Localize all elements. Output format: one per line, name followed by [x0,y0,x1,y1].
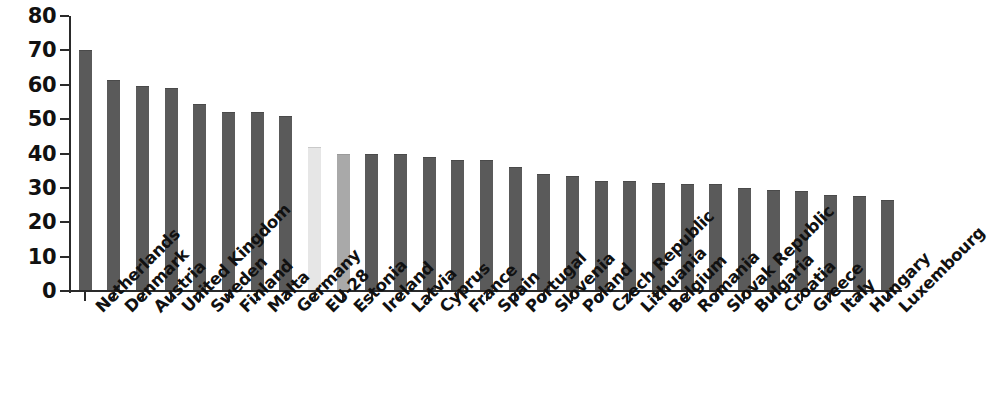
x-axis-tick-label: Germany [293,303,306,316]
y-axis-tick-label: 60 [28,73,56,97]
y-axis-tick-mark [60,153,69,155]
x-axis-tick-label: United Kingdom [178,303,191,316]
x-axis-labels: NetherlandsDenmarkAustriaUnited KingdomS… [71,303,902,414]
bar-slot [730,16,759,291]
x-axis-tick-label: Spain [494,303,507,316]
y-axis-tick-label: 50 [28,107,56,131]
x-axis-tick-label: Italy [837,303,850,316]
bar-slot [845,16,874,291]
y-axis: 01020304050607080 [0,0,72,300]
y-axis-tick-label: 20 [28,210,56,234]
x-axis-tick-label: Slovenia [551,303,564,316]
bar-slot [701,16,730,291]
bar-slot [873,16,902,291]
x-axis-tick-label: Czech Republic [608,303,621,316]
bar-slot [615,16,644,291]
bar [79,50,92,291]
x-axis-tick-label: Poland [579,303,592,316]
x-axis-tick-label: Denmark [121,303,134,316]
x-axis-tick-label: Lithuania [637,303,650,316]
y-axis-tick-mark [60,256,69,258]
y-axis-tick-mark [60,118,69,120]
bar-slot [186,16,215,291]
x-axis-tick-label: Sweden [207,303,220,316]
x-axis-tick-label: Latvia [408,303,421,316]
x-axis-tick-label: Belgium [665,303,678,316]
y-axis-tick-mark [60,221,69,223]
bar-slot [300,16,329,291]
y-axis-tick-label: 30 [28,176,56,200]
bar-slot [100,16,129,291]
x-axis-tick-label: Slovak Republic [723,303,736,316]
x-axis-tick-label: Luxembourg [895,303,908,316]
x-axis-tick-label: Hungary [866,303,879,316]
x-axis-tick-label: Malta [264,303,277,316]
x-axis-tick-label: Finland [236,303,249,316]
bar-slot [530,16,559,291]
x-axis-tick-label: Greece [809,303,822,316]
y-axis-tick-mark [60,187,69,189]
y-axis-tick-label: 40 [28,142,56,166]
bar-slot [501,16,530,291]
x-axis-tick-label: Netherlands [92,303,105,316]
x-axis-tick-label: Cyprus [436,303,449,316]
x-axis-tick-label: Portugal [522,303,535,316]
bar [107,80,120,291]
y-axis-tick-mark [60,15,69,17]
y-axis-tick-mark [60,84,69,86]
x-axis-tick-label: Ireland [379,303,392,316]
bar-slot [472,16,501,291]
x-axis-tick-label: France [465,303,478,316]
bar [308,147,321,291]
bar-slot [587,16,616,291]
x-axis-tick-label: Austria [150,303,163,316]
bar-slot [558,16,587,291]
bar-slot [272,16,301,291]
bar-slot [71,16,100,291]
x-axis-tick-label: Bulgaria [751,303,764,316]
y-axis-tick-label: 0 [42,279,56,303]
bar-slot [444,16,473,291]
x-axis-tick-label: EU-28 [322,303,335,316]
bar-slot [358,16,387,291]
x-axis-tick-label: Estonia [350,303,363,316]
x-axis-tick-mark [84,292,86,301]
x-axis-tick-label: Romania [694,303,707,316]
x-axis-tick-label: Croatia [780,303,793,316]
bar-slot [816,16,845,291]
y-axis-tick-label: 80 [28,4,56,28]
y-axis-tick-label: 70 [28,38,56,62]
bar [365,154,378,292]
bar [537,174,550,291]
bar-slot [415,16,444,291]
y-axis-tick-label: 10 [28,245,56,269]
bar-slot [386,16,415,291]
y-axis-tick-mark [60,49,69,51]
